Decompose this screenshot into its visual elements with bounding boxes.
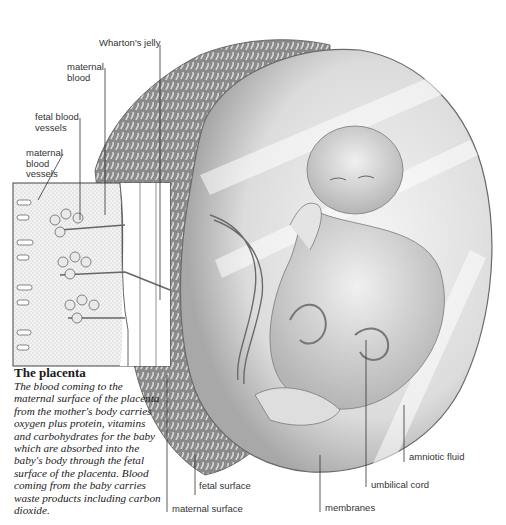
- label-fetal-blood-vessels: fetal blood vessels: [35, 112, 79, 133]
- label-umbilical-cord: umbilical cord: [371, 480, 429, 491]
- label-maternal-blood: maternal blood: [67, 62, 104, 83]
- label-maternal-blood-vessels: maternal blood vessels: [26, 148, 63, 180]
- label-membranes: membranes: [325, 503, 375, 514]
- label-fetal-surface: fetal surface: [199, 481, 251, 492]
- label-whartons-jelly: Wharton's jelly: [99, 38, 160, 49]
- figure-caption: The placenta The blood coming to the mat…: [14, 366, 164, 516]
- caption-title: The placenta: [14, 366, 164, 380]
- placenta-cross-section-inset: [13, 183, 170, 366]
- label-amniotic-fluid: amniotic fluid: [409, 452, 464, 463]
- label-maternal-surface: maternal surface: [172, 504, 243, 515]
- caption-body: The blood coming to the maternal surface…: [14, 380, 164, 516]
- placenta-figure: Wharton's jelly maternal blood fetal blo…: [0, 0, 506, 525]
